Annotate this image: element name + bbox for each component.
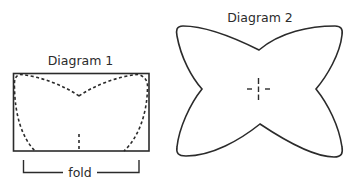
- dashed-cut-line-right: [79, 75, 148, 152]
- fold-label: fold: [68, 165, 91, 180]
- dashed-cut-line-left: [14, 75, 79, 152]
- fold-bracket-right: [97, 160, 139, 173]
- center-crosshair-icon: [247, 78, 270, 100]
- diagram-1-title: Diagram 1: [48, 53, 114, 68]
- unfolded-shape-outline: [177, 26, 343, 157]
- paper-rectangle: [14, 74, 150, 152]
- figure: Diagram 1 fold Diagram 2: [0, 0, 355, 180]
- diagram-2: Diagram 2: [177, 10, 343, 157]
- fold-bracket-left: [24, 160, 64, 173]
- diagram-2-title: Diagram 2: [227, 10, 293, 25]
- diagram-1: Diagram 1 fold: [14, 53, 150, 180]
